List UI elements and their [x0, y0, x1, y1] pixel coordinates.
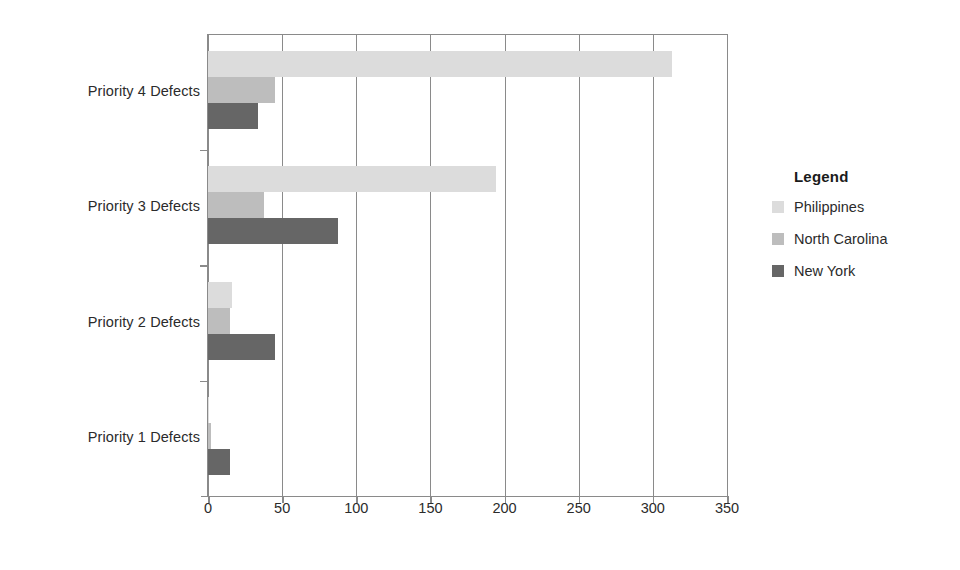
- x-axis-line: [201, 496, 727, 498]
- legend-item: North Carolina: [772, 231, 952, 247]
- x-axis-tick-label: 350: [715, 500, 739, 516]
- bar: [208, 51, 672, 77]
- category-label-priority-4: Priority 4 Defects: [20, 83, 200, 99]
- legend-items: PhilippinesNorth CarolinaNew York: [772, 199, 952, 279]
- bar: [208, 77, 275, 103]
- gridline: [356, 34, 357, 496]
- x-axis-tick-label: 200: [492, 500, 516, 516]
- category-tick: [200, 265, 208, 267]
- bar: [208, 218, 338, 244]
- gridline: [430, 34, 431, 496]
- legend-swatch-icon: [772, 233, 784, 245]
- legend-item-label: Philippines: [794, 199, 864, 215]
- category-axis: Priority 4 Defects Priority 3 Defects Pr…: [16, 34, 200, 496]
- category-label-priority-2: Priority 2 Defects: [20, 314, 200, 330]
- gridline: [727, 34, 728, 496]
- plot-area: [208, 34, 727, 496]
- bar: [208, 308, 230, 334]
- bar: [208, 103, 258, 129]
- x-axis-tick-label: 0: [204, 500, 212, 516]
- bar: [208, 449, 230, 475]
- x-axis-tick-labels: 050100150200250300350: [208, 500, 727, 530]
- x-axis-tick-label: 100: [344, 500, 368, 516]
- category-label-priority-1: Priority 1 Defects: [20, 429, 200, 445]
- x-axis-tick-label: 250: [567, 500, 591, 516]
- legend-title: Legend: [794, 168, 952, 185]
- plot-top-border: [208, 34, 727, 35]
- legend-item-label: North Carolina: [794, 231, 888, 247]
- gridline: [653, 34, 654, 496]
- bar: [208, 192, 264, 218]
- bar: [208, 423, 211, 449]
- bar: [208, 282, 232, 308]
- legend-swatch-icon: [772, 201, 784, 213]
- x-axis-tick-label: 300: [641, 500, 665, 516]
- legend-item: New York: [772, 263, 952, 279]
- bar: [208, 166, 496, 192]
- gridline: [505, 34, 506, 496]
- legend-swatch-icon: [772, 265, 784, 277]
- x-axis-tick-label: 50: [274, 500, 290, 516]
- category-tick: [200, 381, 208, 383]
- x-axis-tick-label: 150: [418, 500, 442, 516]
- category-tick: [200, 150, 208, 152]
- legend-item: Philippines: [772, 199, 952, 215]
- gridline: [282, 34, 283, 496]
- legend: Legend PhilippinesNorth CarolinaNew York: [772, 168, 952, 295]
- legend-item-label: New York: [794, 263, 855, 279]
- bar-chart: Priority 4 Defects Priority 3 Defects Pr…: [0, 0, 960, 570]
- bar: [208, 334, 275, 360]
- category-label-priority-3: Priority 3 Defects: [20, 198, 200, 214]
- bar: [208, 397, 209, 423]
- gridline: [579, 34, 580, 496]
